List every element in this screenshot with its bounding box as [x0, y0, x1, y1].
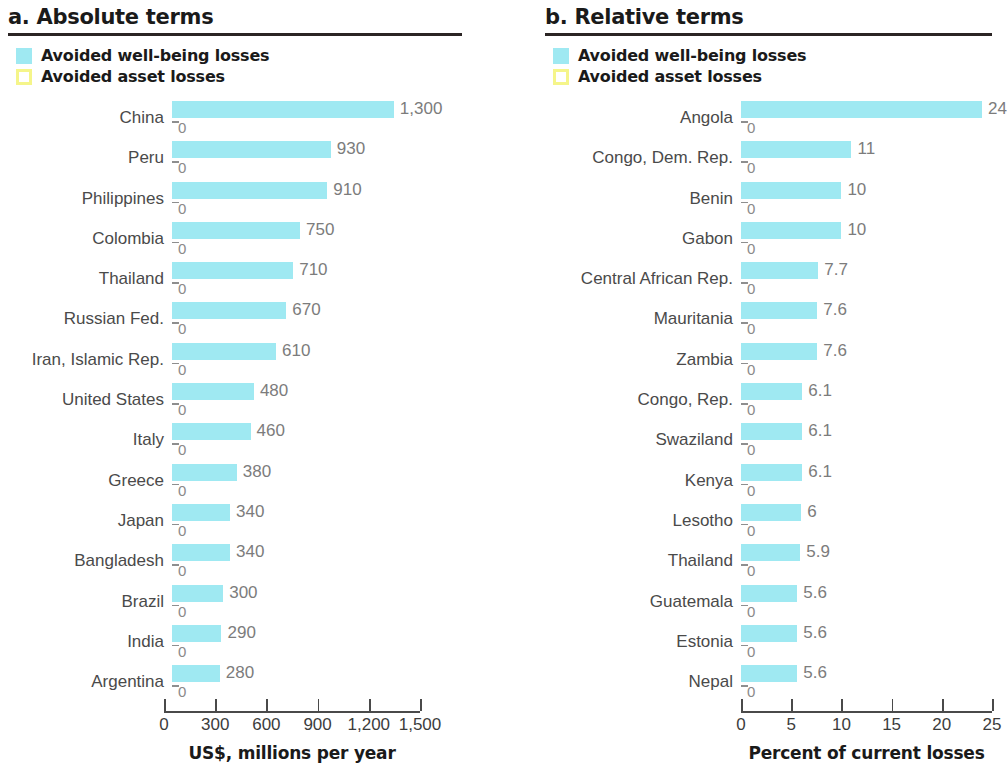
- asset-value-label: 0: [747, 683, 755, 700]
- asset-value-label: 0: [178, 200, 186, 217]
- category-label: Angola: [545, 95, 741, 126]
- x-axis-tick-label: 0: [159, 715, 168, 735]
- asset-value-label: 0: [747, 643, 755, 660]
- x-axis-tick-label: 10: [832, 715, 851, 735]
- legend-item-wellbeing: Avoided well-being losses: [16, 45, 496, 66]
- asset-value-label: 0: [747, 441, 755, 458]
- x-axis-line: [164, 711, 420, 713]
- bar-wellbeing: [741, 625, 797, 642]
- bar-wellbeing: [172, 464, 237, 481]
- asset-value-label: 0: [178, 482, 186, 499]
- category-label: Guatemala: [545, 579, 741, 610]
- category-label: Estonia: [545, 619, 741, 650]
- bar-wellbeing: [741, 262, 818, 279]
- x-axis-tick: [942, 699, 944, 711]
- table-row: China1,3000: [8, 95, 496, 135]
- table-row: Japan3400: [8, 498, 496, 538]
- x-axis-tick-label: 1,500: [399, 715, 442, 735]
- table-row: Iran, Islamic Rep.6100: [8, 337, 496, 377]
- legend-label-asset: Avoided asset losses: [41, 67, 225, 86]
- x-axis-title: US$, millions per year: [188, 743, 395, 763]
- asset-value-label: 0: [747, 603, 755, 620]
- bar-value-label: 5.6: [803, 583, 827, 602]
- bar-value-label: 5.9: [806, 542, 830, 561]
- asset-value-label: 0: [747, 119, 755, 136]
- table-row: Angola240: [545, 95, 992, 135]
- asset-value-label: 0: [178, 562, 186, 579]
- bar-wellbeing: [172, 504, 230, 521]
- table-row: Nepal5.60: [545, 659, 992, 699]
- bar-wellbeing: [172, 262, 293, 279]
- x-axis-tick: [420, 699, 422, 711]
- x-axis-tick: [892, 699, 894, 711]
- table-row: Philippines9100: [8, 176, 496, 216]
- asset-value-label: 0: [178, 643, 186, 660]
- x-axis-tick-label: 25: [983, 715, 1002, 735]
- x-axis-tick: [318, 699, 320, 711]
- asset-value-label: 0: [178, 522, 186, 539]
- panel-a-title: a. Absolute terms: [8, 4, 496, 30]
- bar-wellbeing: [741, 423, 802, 440]
- legend-label-asset: Avoided asset losses: [578, 67, 762, 86]
- bar-value-label: 7.6: [823, 300, 847, 319]
- table-row: Thailand7100: [8, 256, 496, 296]
- table-row: Thailand5.90: [545, 538, 992, 578]
- bar-value-label: 10: [847, 180, 866, 199]
- bar-value-label: 5.6: [803, 623, 827, 642]
- bar-value-label: 7.6: [823, 341, 847, 360]
- bar-value-label: 380: [243, 462, 271, 481]
- bar-wellbeing: [741, 302, 817, 319]
- x-axis-tick-label: 1,200: [348, 715, 391, 735]
- bar-wellbeing: [172, 343, 276, 360]
- bar-value-label: 290: [227, 623, 255, 642]
- asset-value-label: 0: [178, 240, 186, 257]
- panel-a-legend: Avoided well-being losses Avoided asset …: [16, 45, 496, 87]
- table-row: Bangladesh3400: [8, 538, 496, 578]
- asset-value-label: 0: [747, 401, 755, 418]
- table-row: Guatemala5.60: [545, 579, 992, 619]
- asset-value-label: 0: [178, 119, 186, 136]
- bar-wellbeing: [172, 141, 331, 158]
- x-axis-tick: [215, 699, 217, 711]
- legend-label-wellbeing: Avoided well-being losses: [41, 46, 269, 65]
- table-row: United States4800: [8, 377, 496, 417]
- bar-value-label: 710: [299, 260, 327, 279]
- legend-item-asset: Avoided asset losses: [16, 66, 496, 87]
- category-label: India: [8, 619, 172, 650]
- table-row: Russian Fed.6700: [8, 296, 496, 336]
- asset-value-label: 0: [178, 683, 186, 700]
- asset-swatch-icon: [553, 69, 569, 85]
- bar-value-label: 340: [236, 502, 264, 521]
- x-axis-line: [741, 711, 992, 713]
- bar-wellbeing: [172, 383, 254, 400]
- category-label: Iran, Islamic Rep.: [8, 337, 172, 368]
- legend-item-wellbeing: Avoided well-being losses: [553, 45, 992, 66]
- bar-wellbeing: [741, 544, 800, 561]
- asset-value-label: 0: [747, 159, 755, 176]
- bar-wellbeing: [741, 504, 801, 521]
- category-label: Colombia: [8, 216, 172, 247]
- table-row: Congo, Dem. Rep.110: [545, 135, 992, 175]
- category-label: Peru: [8, 135, 172, 166]
- x-axis-tick: [992, 699, 994, 711]
- table-row: Kenya6.10: [545, 458, 992, 498]
- panel-b-bar-rows: Angola240Congo, Dem. Rep.110Benin100Gabo…: [545, 95, 992, 699]
- asset-value-label: 0: [747, 240, 755, 257]
- panel-absolute-terms: a. Absolute terms Avoided well-being los…: [0, 0, 496, 773]
- bar-wellbeing: [172, 302, 286, 319]
- asset-swatch-icon: [16, 69, 32, 85]
- bar-wellbeing: [172, 182, 327, 199]
- table-row: Benin100: [545, 176, 992, 216]
- category-label: Russian Fed.: [8, 296, 172, 327]
- category-label: China: [8, 95, 172, 126]
- category-label: Kenya: [545, 458, 741, 489]
- legend-label-wellbeing: Avoided well-being losses: [578, 46, 806, 65]
- category-label: Benin: [545, 176, 741, 207]
- bar-value-label: 910: [333, 180, 361, 199]
- category-label: Nepal: [545, 659, 741, 690]
- bar-value-label: 670: [292, 300, 320, 319]
- panel-b-legend: Avoided well-being losses Avoided asset …: [553, 45, 992, 87]
- panel-a-bar-rows: China1,3000Peru9300Philippines9100Colomb…: [8, 95, 496, 699]
- x-axis-tick: [266, 699, 268, 711]
